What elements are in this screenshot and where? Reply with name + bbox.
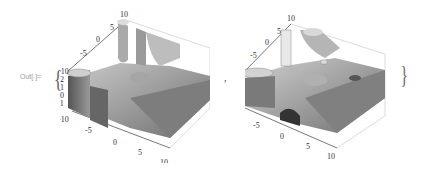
surface-plot-1[interactable]: -10 2 1 0 -1 -5 0 5 10 -10 -5 0 5 10 — [60, 8, 210, 163]
axis-tick: 5 — [306, 142, 310, 151]
axis-tick: 5 — [138, 148, 142, 157]
axis-tick: 10 — [160, 158, 168, 163]
close-brace: } — [400, 60, 407, 90]
axis-tick: 0 — [96, 35, 100, 44]
axis-tick: -5 — [250, 51, 257, 60]
surface-plot-2[interactable]: -10 0.5 0.0 -0.5 -5 0 5 10 -10 -5 0 5 10 — [245, 8, 395, 163]
output-cell-label: Out[∙]= — [20, 73, 41, 80]
axis-tick: 10 — [327, 152, 335, 161]
list-separator: , — [224, 72, 227, 83]
axis-tick: -1 — [60, 99, 64, 108]
axis-tick: 10 — [120, 10, 128, 19]
axis-tick: 5 — [110, 23, 114, 32]
axis-tick: -5 — [85, 126, 92, 135]
axis-tick: -5 — [80, 49, 87, 58]
axis-tick: -10 — [60, 115, 69, 124]
axis-tick: 10 — [287, 14, 295, 23]
axis-tick: 0 — [113, 138, 117, 147]
axis-tick: 5 — [277, 27, 281, 36]
axis-tick: 0 — [265, 38, 269, 47]
axis-tick: -5 — [253, 121, 260, 130]
axis-tick: 0 — [280, 132, 284, 141]
